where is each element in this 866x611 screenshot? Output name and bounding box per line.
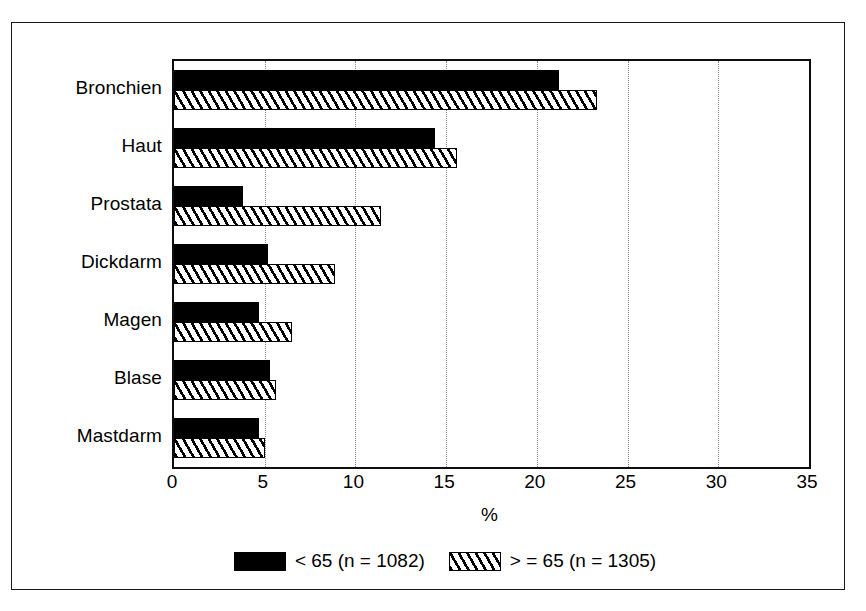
chart-legend: < 65 (n = 1082) > = 65 (n = 1305) (12, 550, 866, 572)
bar-young (174, 128, 435, 148)
category-label-prostata: Prostata (22, 175, 170, 233)
bar-group (174, 293, 809, 351)
bar-old (174, 148, 457, 168)
category-label-mastdarm: Mastdarm (22, 407, 170, 465)
category-label-dickdarm: Dickdarm (22, 233, 170, 291)
bar-old (174, 90, 597, 110)
x-tick-label-10: 10 (343, 471, 364, 493)
x-tick-label-5: 5 (257, 471, 268, 493)
x-tick-label-25: 25 (615, 471, 636, 493)
bar-group (174, 409, 809, 467)
legend-label-old: > = 65 (n = 1305) (510, 550, 656, 572)
bar-young (174, 186, 243, 206)
plot-area (172, 59, 811, 469)
bar-old (174, 438, 265, 458)
category-label-magen: Magen (22, 291, 170, 349)
bar-young (174, 302, 259, 322)
figure-frame: Bronchien Haut Prostata Dickdarm Magen B… (11, 22, 845, 590)
bar-group (174, 119, 809, 177)
solid-black-swatch (234, 552, 286, 571)
x-tick-label-35: 35 (796, 471, 817, 493)
bar-old (174, 264, 335, 284)
x-tick-label-15: 15 (434, 471, 455, 493)
bar-young (174, 70, 559, 90)
bar-old (174, 322, 292, 342)
category-label-haut: Haut (22, 117, 170, 175)
category-axis: Bronchien Haut Prostata Dickdarm Magen B… (22, 59, 170, 465)
bar-young (174, 360, 270, 380)
bar-young (174, 244, 268, 264)
bar-old (174, 380, 276, 400)
bar-group (174, 177, 809, 235)
x-axis-tick-labels: 05101520253035 (172, 471, 807, 497)
bar-groups (174, 61, 809, 467)
legend-label-young: < 65 (n = 1082) (295, 550, 425, 572)
bar-group (174, 235, 809, 293)
x-tick-label-30: 30 (706, 471, 727, 493)
category-label-bronchien: Bronchien (22, 59, 170, 117)
bar-group (174, 351, 809, 409)
bar-old (174, 206, 381, 226)
hatched-swatch (449, 552, 501, 571)
legend-entry-young: < 65 (n = 1082) (234, 550, 425, 572)
legend-entry-old: > = 65 (n = 1305) (449, 550, 656, 572)
bar-young (174, 418, 259, 438)
x-tick-label-20: 20 (524, 471, 545, 493)
x-axis-title: % (172, 504, 807, 526)
bar-group (174, 61, 809, 119)
category-label-blase: Blase (22, 349, 170, 407)
x-tick-label-0: 0 (167, 471, 178, 493)
